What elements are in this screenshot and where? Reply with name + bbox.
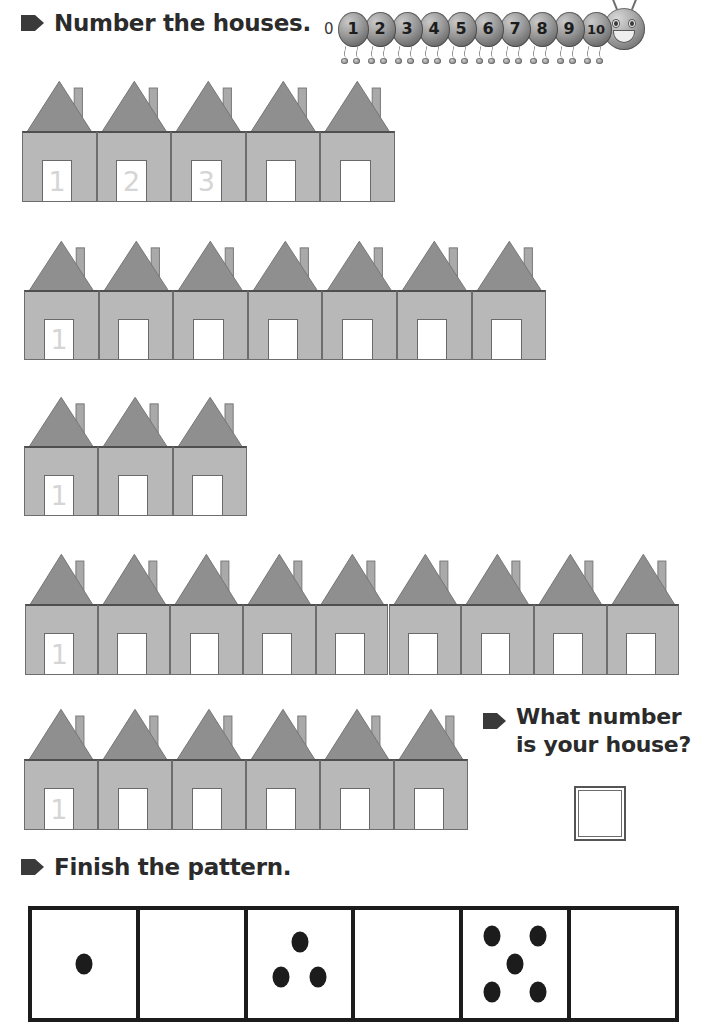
number-line-segment-10: 10 [581,12,612,47]
house-door[interactable] [117,633,147,674]
caterpillar-foot-icon [449,58,456,64]
segment-number-label: 5 [455,21,466,37]
pattern-cell-1[interactable] [32,910,140,1018]
house-door[interactable] [190,633,220,674]
pattern-dot [530,982,547,1003]
house-door-number: 3 [198,168,215,195]
house-door[interactable] [340,160,370,201]
house-door[interactable]: 1 [44,319,74,359]
pattern-dot [75,954,92,975]
house-door-number: 2 [123,168,140,195]
house [246,78,321,202]
house [394,706,468,830]
house-door[interactable] [262,633,292,674]
house-door[interactable] [268,319,298,359]
house-body: 1 [24,446,98,516]
house-door[interactable] [118,788,148,829]
house-roof [607,551,680,607]
house-door[interactable] [266,788,296,829]
house-row-2: 1 [24,238,546,360]
pattern-cell-4[interactable] [355,910,463,1018]
house-body [394,759,468,830]
house-door[interactable] [193,319,223,359]
house-body [173,290,248,360]
house-door[interactable]: 2 [116,160,146,201]
house-door-number: 1 [50,482,67,509]
house-door[interactable] [417,319,447,359]
house-door[interactable] [342,319,372,359]
house-door[interactable] [553,633,583,674]
house [99,238,174,360]
house-roof [320,706,394,762]
house-door[interactable]: 1 [42,160,72,201]
number-line-segment-8: 8 [527,12,558,47]
house-body [170,604,243,675]
house-door[interactable]: 3 [191,160,221,201]
house-roof [170,551,243,607]
house-door[interactable] [408,633,438,674]
heading-what-number-is-your-house: What numberis your house? [480,703,705,759]
house-door[interactable] [266,160,296,201]
house-body [472,290,547,360]
caterpillar-foot-icon [515,58,522,64]
house-body [320,759,394,830]
house-body [320,131,395,202]
house-body [98,604,171,675]
house [607,551,680,675]
house-body: 1 [24,290,99,360]
house-door[interactable] [118,475,148,515]
house [461,551,534,675]
pattern-cell-2[interactable] [140,910,248,1018]
house-door[interactable] [491,319,521,359]
house-roof [248,238,323,293]
smile-icon [613,30,635,43]
house-door[interactable] [340,788,370,829]
segment-number-label: 9 [563,21,574,37]
arrow-bullet-icon [18,8,48,38]
house-door[interactable] [192,788,222,829]
arrow-bullet-icon [480,706,510,736]
house-body: 1 [22,131,97,202]
heading-label: What numberis your house? [516,703,691,759]
house-roof [534,551,607,607]
house-roof [243,551,316,607]
house [98,706,172,830]
caterpillar-foot-icon [530,58,537,64]
house-body [98,446,172,516]
number-line-segment-7: 7 [500,12,531,47]
caterpillar-number-line: 0 12345678910 [324,2,645,56]
house-door[interactable] [481,633,511,674]
house [320,78,395,202]
house-door-number: 1 [50,796,67,823]
caterpillar-foot-icon [353,58,360,64]
house-door-number: 1 [51,641,68,668]
arrow-bullet-icon [18,852,48,882]
house-row-1: 123 [22,78,395,202]
house: 1 [24,394,98,516]
house-door[interactable] [626,633,656,674]
house-body: 1 [24,759,98,830]
house-number-answer-box[interactable] [574,786,626,841]
house: 1 [25,551,98,675]
segment-number-label: 1 [347,21,358,37]
house [316,551,389,675]
answer-box-inner[interactable] [578,790,622,837]
segment-number-label: 8 [536,21,547,37]
house-door[interactable] [335,633,365,674]
heading-line-1: What number [516,704,681,729]
house: 1 [22,78,97,202]
house-door[interactable] [414,788,444,829]
house-door[interactable] [118,319,148,359]
house-door[interactable] [192,475,222,515]
heading-label: Number the houses. [54,10,311,36]
segment-number-label: 6 [482,21,493,37]
house-door[interactable]: 1 [44,633,74,674]
pattern-cell-5[interactable] [463,910,571,1018]
number-line-segment-4: 4 [419,12,450,47]
house-body [461,604,534,675]
house-roof [246,78,321,134]
pattern-cell-3[interactable] [248,910,356,1018]
house-door[interactable]: 1 [44,475,74,515]
pattern-cell-6[interactable] [571,910,675,1018]
house-door[interactable]: 1 [44,788,74,829]
